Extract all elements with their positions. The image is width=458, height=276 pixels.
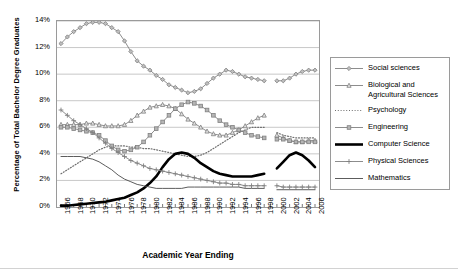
legend-label: Psychology	[368, 105, 406, 115]
x-tick-label: 1986	[190, 197, 199, 214]
chart-figure: Percentage of Total Bachelor Degree Grad…	[0, 0, 458, 276]
legend-swatch	[334, 122, 364, 133]
x-axis-title: Academic Year Ending	[56, 250, 320, 260]
legend-swatch	[334, 156, 364, 167]
legend-item[interactable]: Mathematics	[334, 173, 445, 184]
legend-swatch	[334, 63, 364, 74]
x-tick-label: 2004	[304, 197, 313, 214]
x-tick-label: 1968	[76, 197, 85, 214]
legend-swatch	[334, 105, 364, 116]
legend-item[interactable]: Physical Sciences	[334, 156, 445, 167]
legend-item[interactable]: Psychology	[334, 105, 445, 116]
bottom-divider	[0, 268, 458, 269]
x-tick-label: 1980	[152, 197, 161, 214]
x-tick-label: 2002	[292, 197, 301, 214]
x-tick-label: 1996	[254, 197, 263, 214]
legend-item[interactable]: Biological and Agricultural Sciences	[334, 80, 445, 99]
x-tick-label: 1988	[203, 197, 212, 214]
legend-label: Social sciences	[368, 63, 420, 73]
data-point	[347, 66, 351, 70]
x-tick-label: 1974	[114, 197, 123, 214]
legend-label: Physical Sciences	[368, 156, 428, 166]
x-tick-label: 1982	[165, 197, 174, 214]
x-tick-label: 1990	[215, 197, 224, 214]
legend-swatch	[334, 173, 364, 184]
x-tick-label: 1978	[139, 197, 148, 214]
x-tick-label: 2006	[317, 197, 326, 214]
chart-legend: Social sciencesBiological and Agricultur…	[330, 57, 450, 190]
legend-label: Computer Science	[368, 139, 430, 149]
legend-label: Engineering	[368, 122, 408, 132]
data-point	[347, 83, 351, 87]
legend-swatch	[334, 139, 364, 150]
x-tick-label: 1994	[241, 197, 250, 214]
legend-item[interactable]: Computer Science	[334, 139, 445, 150]
legend-item[interactable]: Social sciences	[334, 63, 445, 74]
legend-label: Biological and Agricultural Sciences	[368, 80, 445, 99]
x-tick-label: 1976	[127, 197, 136, 214]
x-tick-label: 1998	[266, 197, 275, 214]
legend-swatch	[334, 80, 364, 91]
x-tick-label: 1972	[101, 197, 110, 214]
data-point	[347, 159, 352, 164]
x-tick-label: 1984	[177, 197, 186, 214]
x-tick-label: 2000	[279, 197, 288, 214]
data-point	[347, 126, 351, 130]
legend-label: Mathematics	[368, 173, 411, 183]
x-tick-label: 1966	[63, 197, 72, 214]
legend-item[interactable]: Engineering	[334, 122, 445, 133]
x-tick-label: 1992	[228, 197, 237, 214]
x-tick-label: 1970	[88, 197, 97, 214]
